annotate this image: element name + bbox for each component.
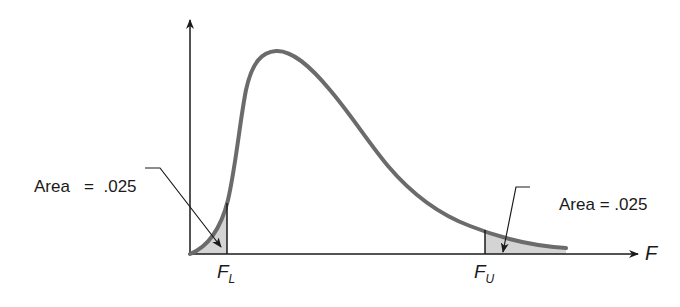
upper-critical-label: FU: [474, 262, 494, 281]
left-annotation-leader: [145, 168, 221, 247]
x-axis-label: F: [645, 243, 657, 263]
left-area-value: .025: [103, 177, 136, 196]
right-area-annotation: Area = .025: [541, 179, 647, 230]
upper-critical-symbol: F: [474, 261, 486, 282]
lower-critical-subscript: L: [229, 272, 236, 286]
right-area-value: .025: [614, 195, 647, 214]
f-distribution-diagram: Area = .025 Area = .025 FL FU F: [0, 0, 680, 307]
left-area-equals: =: [84, 177, 94, 196]
f-density-curve: [190, 51, 566, 254]
left-area-annotation: Area = .025: [16, 161, 137, 212]
upper-critical-subscript: U: [486, 272, 495, 286]
lower-critical-symbol: F: [217, 261, 229, 282]
diagram-canvas: [0, 0, 680, 307]
right-area-equals: =: [600, 195, 610, 214]
right-area-word: Area: [559, 195, 595, 214]
lower-tail-area: [190, 203, 227, 254]
left-area-word: Area: [34, 177, 70, 196]
lower-critical-label: FL: [217, 262, 235, 281]
